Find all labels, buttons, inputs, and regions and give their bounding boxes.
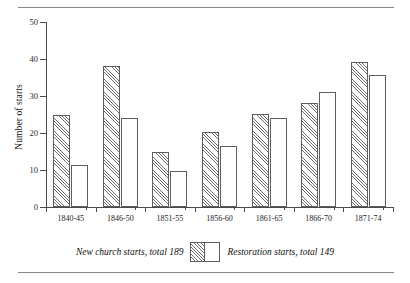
y-axis-tick-label: 50	[16, 18, 38, 27]
x-axis-minor-tick	[86, 207, 87, 210]
bar-restoration-1866-70	[319, 92, 336, 207]
y-axis-tick-label: 30	[16, 92, 38, 101]
bar-new-church-1840-45	[53, 115, 70, 208]
bar-new-church-1856-60	[202, 132, 219, 207]
x-axis-line	[46, 207, 393, 208]
x-axis-tick-label: 1846-50	[96, 214, 146, 223]
y-axis-tick-label: 40	[16, 55, 38, 64]
bar-new-church-1861-65	[252, 114, 269, 207]
y-axis-tick	[40, 22, 46, 23]
bar-restoration-1856-60	[220, 146, 237, 207]
x-axis-tick	[195, 207, 196, 212]
x-axis-tick	[393, 207, 394, 212]
y-axis-tick-label: 20	[16, 129, 38, 138]
bar-restoration-1846-50	[121, 118, 138, 207]
bar-new-church-1846-50	[103, 66, 120, 207]
bar-restoration-1871-74	[369, 75, 386, 207]
x-axis-minor-tick	[135, 207, 136, 210]
bar-restoration-1861-65	[270, 118, 287, 207]
bar-restoration-1840-45	[71, 165, 88, 207]
x-axis-tick-label: 1851-55	[145, 214, 195, 223]
x-axis-tick-label: 1871-74	[343, 214, 393, 223]
x-axis-minor-tick	[185, 207, 186, 210]
x-axis-minor-tick	[334, 207, 335, 210]
y-axis-tick	[40, 59, 46, 60]
x-axis-tick-label: 1861-65	[244, 214, 294, 223]
x-axis-tick-label: 1840-45	[46, 214, 96, 223]
x-axis-tick	[294, 207, 295, 212]
x-axis-tick-label: 1856-60	[195, 214, 245, 223]
x-axis-minor-tick	[234, 207, 235, 210]
bar-new-church-1851-55	[152, 152, 169, 208]
legend-swatch-pair	[190, 242, 220, 262]
bar-new-church-1871-74	[351, 62, 368, 207]
y-axis-tick-label: 10	[16, 166, 38, 175]
y-axis-tick	[40, 96, 46, 97]
open-bar-swatch-icon	[205, 242, 220, 262]
x-axis-tick	[46, 207, 47, 212]
legend-label-new-church-starts: New church starts, total 189	[76, 247, 184, 257]
x-axis-tick	[244, 207, 245, 212]
y-axis-title: Number of starts	[14, 57, 24, 177]
x-axis-tick	[145, 207, 146, 212]
x-axis-tick-label: 1866-70	[294, 214, 344, 223]
bar-new-church-1866-70	[301, 103, 318, 207]
y-axis-tick	[40, 170, 46, 171]
bar-restoration-1851-55	[170, 171, 187, 207]
hatched-bar-swatch-icon	[190, 242, 205, 262]
x-axis-tick	[343, 207, 344, 212]
x-axis-tick	[96, 207, 97, 212]
x-axis-minor-tick	[383, 207, 384, 210]
y-axis-tick-label: 0	[16, 203, 38, 212]
y-axis-tick	[40, 133, 46, 134]
chart-legend: New church starts, total 189 Restoration…	[0, 240, 410, 264]
x-axis-minor-tick	[284, 207, 285, 210]
legend-label-restoration-starts: Restoration starts, total 149	[227, 247, 334, 257]
figure: Number of starts 01020304050 1840-451846…	[0, 0, 410, 283]
y-axis-line	[46, 22, 47, 208]
